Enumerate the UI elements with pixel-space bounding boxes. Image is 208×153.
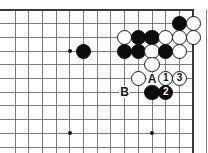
stone-move-number: 3 [177,73,182,83]
go-board-diagram: 132 AB [0,0,208,153]
stone-black[interactable] [117,44,132,59]
stone-black-move-2[interactable]: 2 [158,85,173,100]
stone-move-number: 2 [163,87,168,97]
point-label-b: B [119,86,130,98]
stone-black[interactable] [76,44,91,59]
board-surface: 132 AB [0,0,208,153]
star-point [68,49,72,53]
stone-move-number: 1 [163,73,168,83]
stone-white-move-3[interactable]: 3 [172,71,187,86]
stone-white[interactable] [172,44,187,59]
stone-white[interactable] [186,30,201,45]
stone-white[interactable] [131,71,146,86]
stone-white[interactable] [144,57,159,72]
point-label-a: A [147,73,158,85]
stone-white[interactable] [172,30,187,45]
